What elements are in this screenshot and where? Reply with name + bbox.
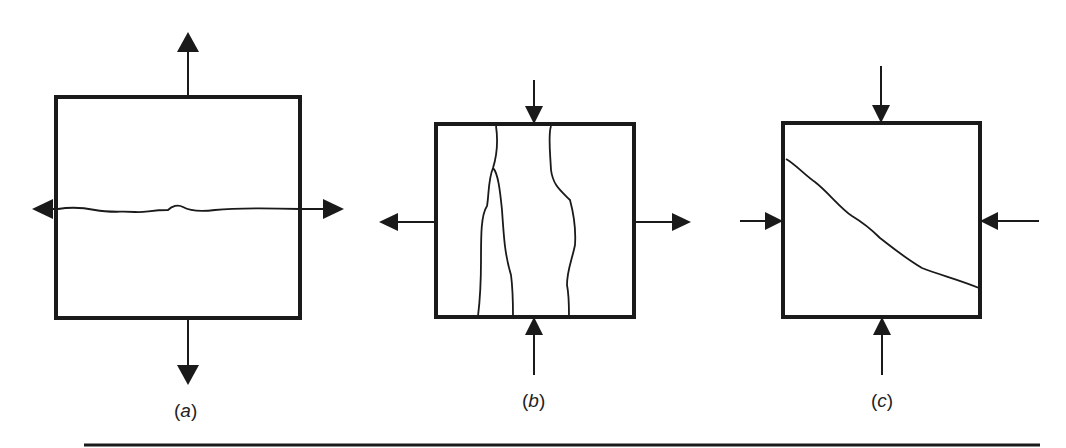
arrow-down-icon xyxy=(525,80,543,124)
paren-close: ) xyxy=(539,390,545,411)
arrow-right-icon xyxy=(300,199,344,219)
splitting-cracks xyxy=(478,126,575,316)
arrow-left-icon xyxy=(980,212,1039,230)
panel-label-a: (a) xyxy=(174,400,197,422)
crack-horizontal xyxy=(58,206,300,213)
arrow-up-icon xyxy=(873,317,891,375)
arrow-up-icon xyxy=(525,317,543,375)
paren-close: ) xyxy=(191,400,197,421)
arrow-left-icon xyxy=(379,213,436,231)
panel-label-c: (c) xyxy=(871,390,893,412)
arrow-down-icon xyxy=(177,318,199,385)
panel-a xyxy=(32,32,344,385)
panel-letter: b xyxy=(528,390,539,411)
panel-b xyxy=(379,80,691,375)
arrow-up-icon xyxy=(177,32,199,97)
specimen-box-a xyxy=(56,97,300,318)
panel-c xyxy=(740,66,1039,375)
specimen-box-b xyxy=(436,124,634,317)
failure-modes-figure xyxy=(0,0,1066,448)
crack-inclined xyxy=(786,159,979,288)
specimen-box-c xyxy=(783,123,980,317)
panel-letter: a xyxy=(180,400,191,421)
arrow-right-icon xyxy=(740,212,783,230)
panel-letter: c xyxy=(877,390,887,411)
panel-label-b: (b) xyxy=(522,390,545,412)
arrow-right-icon xyxy=(634,213,691,231)
arrow-left-icon xyxy=(32,199,56,219)
arrow-down-icon xyxy=(872,66,890,123)
paren-close: ) xyxy=(887,390,893,411)
